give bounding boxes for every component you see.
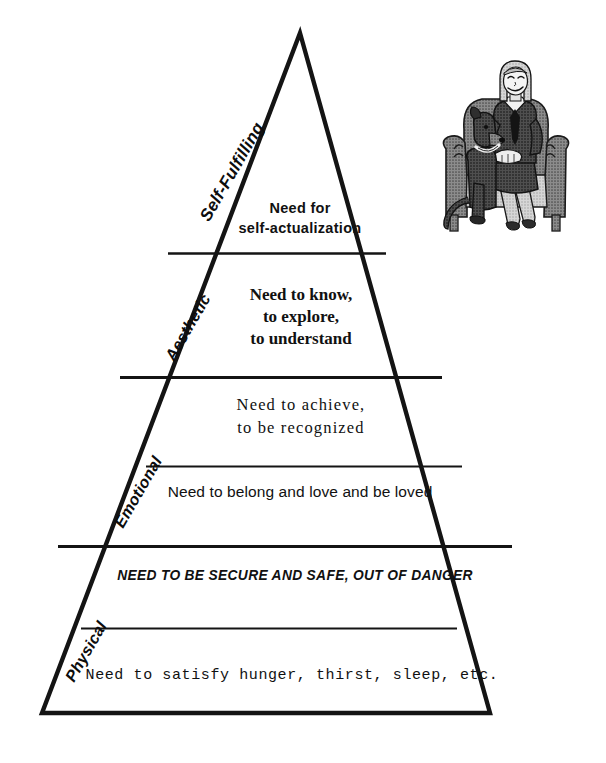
armchair-right-arm <box>544 136 569 217</box>
woman-shoe-left <box>506 222 520 230</box>
woman-armchair-dog-icon <box>434 57 576 239</box>
woman-skirt <box>492 161 538 193</box>
dog-nose <box>499 138 505 143</box>
armchair-leg-left <box>450 215 458 231</box>
dog-eye <box>484 125 488 129</box>
hierarchy-of-needs-diagram: Need for self-actualization Need to know… <box>0 0 606 763</box>
woman-shoe-right <box>522 220 536 228</box>
pyramid-triangle <box>42 33 490 713</box>
armchair-leg-right <box>552 215 560 231</box>
dog-front-leg <box>472 183 484 221</box>
illustration-woman-armchair-dog <box>434 57 576 239</box>
